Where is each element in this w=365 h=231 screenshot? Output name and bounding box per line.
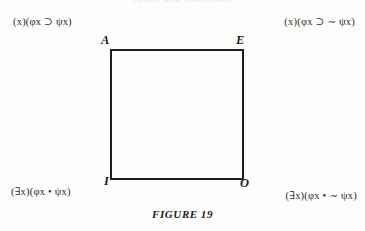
vertex-label-a: A <box>101 33 109 48</box>
running-header: LOGIC AND LANGUAGE <box>0 0 365 3</box>
figure-caption-number: 19 <box>201 208 213 220</box>
figure-caption: FIGURE19 <box>0 208 365 220</box>
vertex-label-e: E <box>236 33 244 48</box>
figure-caption-label: FIGURE <box>152 208 198 220</box>
vertex-label-i: I <box>104 174 109 189</box>
formula-o-particular-negative: (∃x)(φx • ∼ ψx) <box>286 189 357 201</box>
square-of-opposition-outline <box>110 49 244 180</box>
formula-i-particular-affirmative: (∃x)(φx • ψx) <box>11 185 71 197</box>
formula-a-universal-affirmative: (x)(φx ⊃ ψx) <box>13 15 72 27</box>
figure-page: LOGIC AND LANGUAGE (x)(φx ⊃ ψx) (x)(φx ⊃… <box>0 0 365 231</box>
formula-e-universal-negative: (x)(φx ⊃ ∼ ψx) <box>284 15 355 27</box>
